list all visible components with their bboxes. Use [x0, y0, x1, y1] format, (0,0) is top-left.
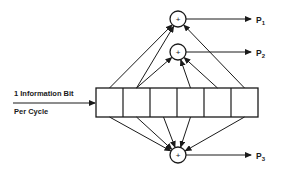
- tap-line-p1-cell-6: [184, 25, 245, 88]
- output-label-p1: P1: [256, 15, 266, 26]
- tap-line-p3-cell-2: [137, 117, 172, 149]
- tap-line-p1-cell-1: [110, 25, 173, 88]
- tap-line-p3-cell-1: [110, 117, 171, 151]
- tap-line-p3-cell-6: [185, 117, 244, 151]
- adder-p2: +P2: [170, 44, 266, 60]
- adder-p1: +P1: [170, 11, 266, 27]
- plus-icon: +: [176, 48, 181, 57]
- plus-icon: +: [176, 15, 181, 24]
- tap-line-p2-cell-2: [137, 58, 172, 88]
- input-label-line2: Per Cycle: [14, 107, 48, 116]
- adder-p3: +P3: [170, 147, 266, 163]
- tap-line-p2-cell-4: [181, 60, 191, 88]
- input-label-line1: 1 Information Bit: [14, 89, 74, 98]
- output-label-p2: P2: [256, 48, 266, 59]
- tap-line-p3-cell-3: [164, 117, 175, 147]
- output-label-p3: P3: [256, 151, 266, 162]
- tap-line-p3-cell-4: [181, 117, 191, 147]
- shift-register: [96, 88, 258, 117]
- plus-icon: +: [176, 151, 181, 160]
- encoder-diagram: 1 Information Bit Per Cycle +P1+P2+P3: [0, 0, 282, 174]
- adders: +P1+P2+P3: [170, 11, 266, 163]
- tap-line-p1-cell-2: [137, 26, 174, 88]
